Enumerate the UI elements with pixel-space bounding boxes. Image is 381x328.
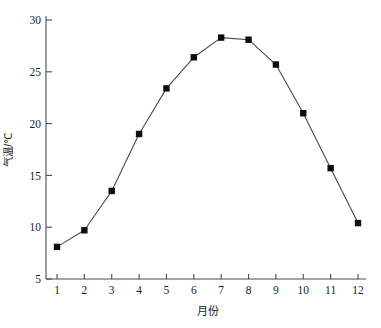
x-tick-label: 12 xyxy=(352,284,364,296)
y-tick-label: 25 xyxy=(30,66,42,78)
data-point-marker xyxy=(327,165,333,171)
data-point-marker xyxy=(109,188,115,194)
y-axis-tick-labels: 51015202530 xyxy=(30,14,42,285)
x-axis-title: 月份 xyxy=(197,305,219,317)
data-point-marker xyxy=(355,220,361,226)
x-tick-label: 9 xyxy=(273,284,279,296)
x-tick-label: 1 xyxy=(54,284,60,296)
data-point-marker xyxy=(136,131,142,137)
chart-canvas: 51015202530 123456789101112 气温/℃ 月份 xyxy=(0,0,381,328)
temperature-line xyxy=(57,38,358,247)
x-tick-label: 10 xyxy=(298,284,310,296)
axes xyxy=(46,16,366,279)
x-tick-label: 4 xyxy=(136,284,142,296)
y-tick-label: 30 xyxy=(30,14,42,26)
data-point-marker xyxy=(191,54,197,60)
y-axis-ticks xyxy=(46,20,52,279)
data-point-marker xyxy=(81,227,87,233)
y-tick-label: 15 xyxy=(30,170,42,182)
x-tick-label: 5 xyxy=(164,284,170,296)
data-point-markers xyxy=(54,34,361,250)
x-tick-label: 3 xyxy=(109,284,115,296)
data-point-marker xyxy=(300,110,306,116)
x-tick-label: 11 xyxy=(325,284,336,296)
data-point-marker xyxy=(163,85,169,91)
x-tick-label: 2 xyxy=(81,284,87,296)
data-point-marker xyxy=(218,34,224,40)
x-axis-ticks xyxy=(57,274,358,279)
y-tick-label: 10 xyxy=(30,221,42,233)
data-point-marker xyxy=(54,244,60,250)
x-tick-label: 7 xyxy=(218,284,224,296)
x-tick-label: 6 xyxy=(191,284,197,296)
data-point-marker xyxy=(245,36,251,42)
y-axis-title: 气温/℃ xyxy=(2,132,14,167)
y-tick-label: 20 xyxy=(30,118,42,130)
y-tick-label: 5 xyxy=(35,273,41,285)
data-point-marker xyxy=(273,61,279,67)
x-axis-tick-labels: 123456789101112 xyxy=(54,284,364,296)
x-tick-label: 8 xyxy=(246,284,252,296)
temperature-line-chart: 51015202530 123456789101112 气温/℃ 月份 xyxy=(0,0,381,328)
